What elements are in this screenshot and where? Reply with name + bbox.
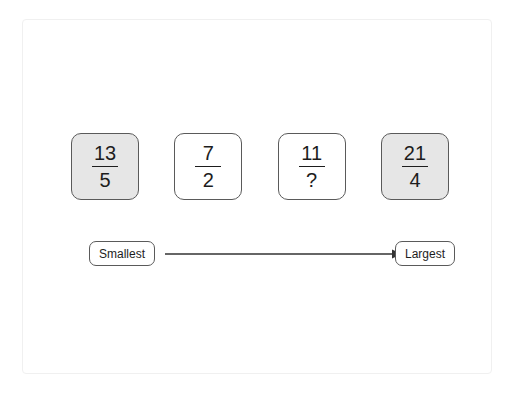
fraction-card-1[interactable]: 13 5	[71, 133, 139, 200]
denominator: 4	[409, 169, 420, 190]
ordering-arrow-icon	[165, 245, 405, 263]
fraction-card-4[interactable]: 21 4	[381, 133, 449, 200]
fraction-bar-icon	[195, 166, 221, 168]
largest-label-pill: Largest	[395, 241, 455, 266]
denominator: 5	[99, 169, 110, 190]
fraction-bar-icon	[92, 166, 118, 168]
numerator: 13	[94, 143, 116, 165]
ordering-scale: Smallest Largest	[67, 241, 455, 267]
fraction-1: 13 5	[92, 143, 118, 191]
numerator: 11	[301, 143, 322, 165]
denominator: 2	[203, 169, 214, 190]
fraction-3: 11 ?	[299, 143, 325, 191]
figure-frame: 13 5 7 2 11 ? 21 4	[22, 19, 492, 374]
largest-label-text: Largest	[405, 247, 445, 261]
fraction-bar-icon	[299, 166, 325, 168]
denominator-unknown[interactable]: ?	[306, 169, 317, 190]
numerator: 21	[404, 143, 426, 165]
fraction-card-3[interactable]: 11 ?	[278, 133, 346, 200]
fraction-cards-row: 13 5 7 2 11 ? 21 4	[71, 133, 449, 200]
numerator: 7	[203, 143, 214, 165]
smallest-label-pill: Smallest	[89, 241, 155, 266]
smallest-label-text: Smallest	[99, 247, 145, 261]
fraction-card-2[interactable]: 7 2	[174, 133, 242, 200]
fraction-4: 21 4	[402, 143, 428, 191]
fraction-bar-icon	[402, 166, 428, 168]
fraction-2: 7 2	[195, 143, 221, 191]
